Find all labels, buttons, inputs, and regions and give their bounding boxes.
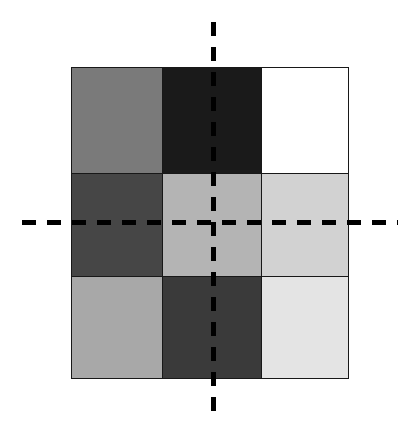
horizontal-axis-line (22, 220, 398, 225)
cell-r2c3 (261, 173, 348, 277)
cell-r1c3 (261, 67, 348, 174)
cell-r1c1 (71, 67, 163, 174)
cell-r3c3 (261, 276, 348, 378)
cell-r2c1 (71, 173, 163, 277)
cell-r3c1 (71, 276, 163, 378)
figure-canvas (0, 0, 418, 432)
